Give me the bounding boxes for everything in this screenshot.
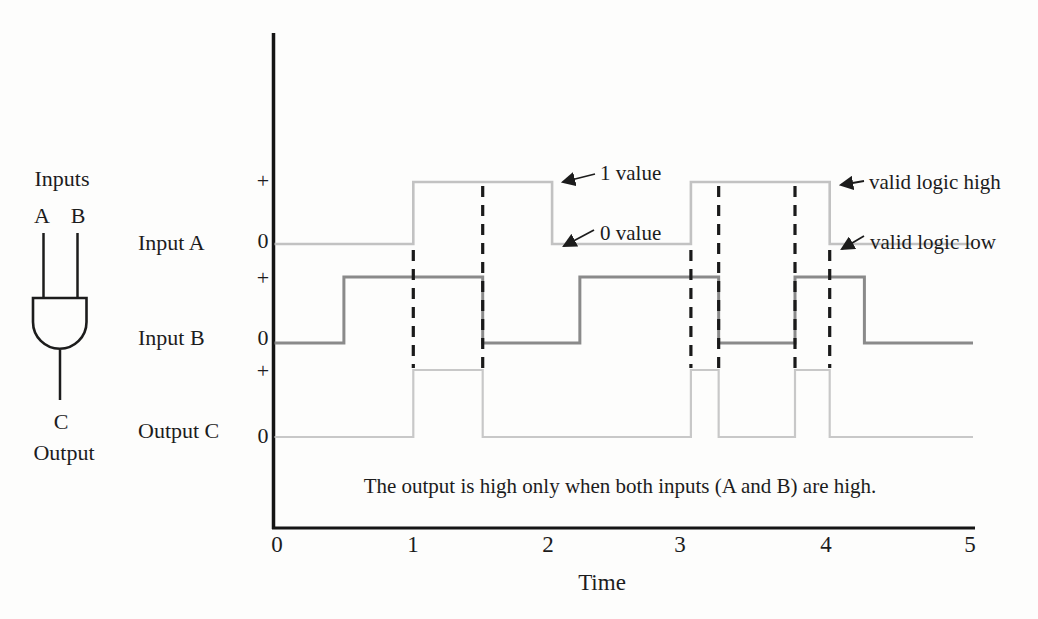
- x-tick-labels: 0 1 2 3 4 5: [271, 532, 976, 557]
- x-axis-title: Time: [578, 570, 626, 595]
- x-tick-4: 4: [820, 532, 832, 557]
- row-label-input-b: Input B: [138, 325, 205, 350]
- one-value-arrow: [563, 174, 595, 182]
- zero-value-label: 0 value: [600, 221, 661, 245]
- row-label-output-c: Output C: [138, 418, 219, 443]
- level-zero-c: 0: [258, 423, 269, 448]
- gate-input-b-label: B: [71, 203, 86, 228]
- and-gate-body: [33, 298, 87, 349]
- valid-logic-high-label: valid logic high: [869, 170, 1001, 194]
- timing-diagram-figure: Inputs A B C Output Input A Input B Outp…: [0, 0, 1038, 619]
- and-gate-schematic: Inputs A B C Output: [33, 166, 95, 465]
- x-tick-3: 3: [674, 532, 686, 557]
- valid-logic-low-arrow: [842, 236, 864, 249]
- x-tick-0: 0: [271, 532, 283, 557]
- gate-output-label: Output: [33, 440, 94, 465]
- gate-input-a-label: A: [34, 203, 50, 228]
- row-labels: Input A Input B Output C + 0 + 0 + 0: [138, 168, 269, 448]
- row-label-input-a: Input A: [138, 230, 205, 255]
- level-plus-b: +: [257, 265, 269, 290]
- waveform-input-b: [275, 277, 974, 343]
- valid-logic-low-label: valid logic low: [870, 230, 997, 254]
- level-zero-a: 0: [258, 228, 269, 253]
- level-plus-c: +: [257, 358, 269, 383]
- figure-canvas: Inputs A B C Output Input A Input B Outp…: [0, 0, 1038, 619]
- x-tick-1: 1: [407, 532, 419, 557]
- figure-caption: The output is high only when both inputs…: [364, 474, 877, 498]
- gate-inputs-label: Inputs: [35, 166, 90, 191]
- x-tick-5: 5: [964, 532, 976, 557]
- annotations: 1 value 0 value valid logic high valid l…: [563, 161, 1001, 254]
- gate-output-pin-label: C: [54, 409, 69, 434]
- one-value-label: 1 value: [600, 161, 661, 185]
- waveform-output-c: [275, 370, 974, 437]
- x-tick-2: 2: [542, 532, 554, 557]
- valid-logic-high-arrow: [841, 181, 864, 185]
- axes: [272, 33, 975, 529]
- level-plus-a: +: [257, 168, 269, 193]
- level-zero-b: 0: [258, 325, 269, 350]
